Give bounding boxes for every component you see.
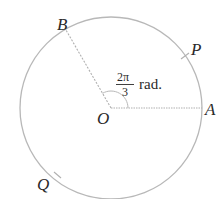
label-o: O bbox=[97, 109, 109, 128]
label-q: Q bbox=[37, 175, 49, 194]
circle-diagram: B P A O Q 2π 3 rad. bbox=[0, 0, 218, 199]
label-a: A bbox=[204, 100, 216, 119]
angle-numerator: 2π bbox=[117, 70, 129, 84]
angle-denominator: 3 bbox=[122, 85, 128, 99]
angle-unit: rad. bbox=[139, 76, 162, 92]
label-b: B bbox=[57, 15, 68, 34]
label-p: P bbox=[190, 40, 201, 59]
radius-ob bbox=[66, 29, 112, 108]
tick-q bbox=[54, 172, 61, 178]
